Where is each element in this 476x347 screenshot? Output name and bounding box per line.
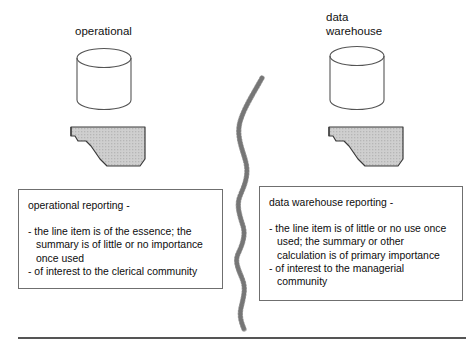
diagram-canvas: operational operational reporting - - th… <box>0 0 476 347</box>
bottom-divider-rule <box>18 337 466 339</box>
wavy-divider-line <box>0 0 476 347</box>
